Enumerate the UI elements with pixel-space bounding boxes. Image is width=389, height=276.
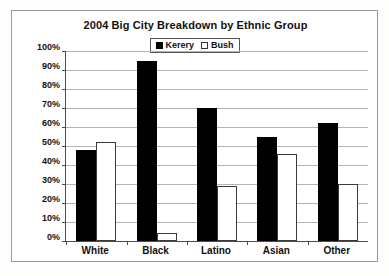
bar-group xyxy=(187,51,247,241)
y-axis-labels: 100%90%80%70%60%50%40%30%20%10%0% xyxy=(20,47,60,237)
chart-screenshot: 2004 Big City Breakdown by Ethnic Group … xyxy=(0,0,389,276)
x-tick-label-latino: Latino xyxy=(186,245,246,256)
y-tick-label: 90% xyxy=(20,62,60,71)
x-axis-labels: WhiteBlackLatinoAsianOther xyxy=(65,245,367,256)
x-tick-label-white: White xyxy=(65,245,125,256)
x-tick-label-black: Black xyxy=(126,245,186,256)
bar-kerery-other xyxy=(318,123,338,241)
bar-kerery-asian xyxy=(257,137,277,242)
x-tick-label-other: Other xyxy=(307,245,367,256)
plot-wrapper: 100%90%80%70%60%50%40%30%20%10%0% WhiteB… xyxy=(12,11,379,263)
bar-kerery-black xyxy=(137,61,157,242)
x-tick-label-asian: Asian xyxy=(246,245,306,256)
y-tick-label: 30% xyxy=(20,176,60,185)
bar-bush-black xyxy=(157,233,177,241)
y-tick-label: 20% xyxy=(20,195,60,204)
y-tick-label: 100% xyxy=(20,43,60,52)
y-tick-label: 10% xyxy=(20,214,60,223)
bar-group xyxy=(308,51,368,241)
y-tick-label: 50% xyxy=(20,138,60,147)
bar-bush-other xyxy=(338,184,358,241)
bar-bush-latino xyxy=(217,186,237,241)
bar-group xyxy=(127,51,187,241)
plot-area xyxy=(65,51,368,242)
bars-layer xyxy=(66,51,368,241)
bar-bush-asian xyxy=(277,154,297,241)
chart-frame: 2004 Big City Breakdown by Ethnic Group … xyxy=(11,10,378,262)
bar-group xyxy=(247,51,307,241)
bar-bush-white xyxy=(96,142,116,241)
y-tick-label: 40% xyxy=(20,157,60,166)
bar-kerery-white xyxy=(76,150,96,241)
y-tick-label: 0% xyxy=(20,233,60,242)
bar-kerery-latino xyxy=(197,108,217,241)
y-tick-label: 80% xyxy=(20,81,60,90)
y-tick-label: 60% xyxy=(20,119,60,128)
bar-group xyxy=(66,51,126,241)
y-tick-label: 70% xyxy=(20,100,60,109)
